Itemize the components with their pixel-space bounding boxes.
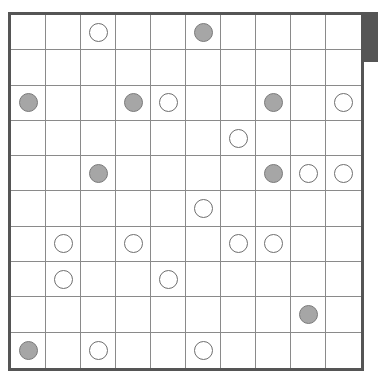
grid-cell[interactable] [291, 262, 326, 297]
grid-cell[interactable] [81, 156, 116, 191]
grid-cell[interactable] [291, 15, 326, 50]
grid-cell[interactable] [46, 121, 81, 156]
grid-cell[interactable] [116, 15, 151, 50]
grid-cell[interactable] [256, 156, 291, 191]
grid-cell[interactable] [256, 262, 291, 297]
grid-cell[interactable] [291, 297, 326, 332]
grid-cell[interactable] [116, 121, 151, 156]
grid-cell[interactable] [116, 191, 151, 226]
grid-cell[interactable] [326, 156, 361, 191]
grid-cell[interactable] [221, 50, 256, 85]
grid-cell[interactable] [81, 191, 116, 226]
grid-cell[interactable] [256, 297, 291, 332]
grid-cell[interactable] [186, 15, 221, 50]
grid-cell[interactable] [326, 121, 361, 156]
grid-cell[interactable] [151, 191, 186, 226]
grid-cell[interactable] [46, 156, 81, 191]
grid-cell[interactable] [46, 15, 81, 50]
grid-cell[interactable] [11, 86, 46, 121]
grid-cell[interactable] [186, 333, 221, 368]
grid-cell[interactable] [221, 121, 256, 156]
grid-cell[interactable] [116, 86, 151, 121]
grid-cell[interactable] [151, 156, 186, 191]
grid-cell[interactable] [116, 297, 151, 332]
grid-cell[interactable] [186, 156, 221, 191]
grid-cell[interactable] [11, 50, 46, 85]
grid-cell[interactable] [256, 86, 291, 121]
grid-cell[interactable] [151, 333, 186, 368]
grid-cell[interactable] [256, 121, 291, 156]
grid-cell[interactable] [11, 333, 46, 368]
grid-cell[interactable] [81, 86, 116, 121]
grid-cell[interactable] [11, 191, 46, 226]
grid-cell[interactable] [46, 262, 81, 297]
grid-cell[interactable] [256, 191, 291, 226]
grid-cell[interactable] [221, 15, 256, 50]
grid-cell[interactable] [186, 191, 221, 226]
grid-cell[interactable] [221, 156, 256, 191]
grid-cell[interactable] [256, 333, 291, 368]
grid-cell[interactable] [11, 227, 46, 262]
grid-cell[interactable] [221, 262, 256, 297]
grid-cell[interactable] [186, 297, 221, 332]
grid-cell[interactable] [11, 297, 46, 332]
grid-cell[interactable] [11, 121, 46, 156]
grid-cell[interactable] [81, 262, 116, 297]
grid-cell[interactable] [291, 156, 326, 191]
grid-cell[interactable] [221, 333, 256, 368]
grid-cell[interactable] [116, 156, 151, 191]
grid-cell[interactable] [116, 227, 151, 262]
grid-cell[interactable] [81, 297, 116, 332]
grid-cell[interactable] [326, 50, 361, 85]
grid-cell[interactable] [46, 50, 81, 85]
grid-cell[interactable] [221, 191, 256, 226]
grid-cell[interactable] [326, 333, 361, 368]
grid-cell[interactable] [186, 262, 221, 297]
grid-cell[interactable] [116, 262, 151, 297]
grid-cell[interactable] [291, 50, 326, 85]
grid-cell[interactable] [116, 333, 151, 368]
grid-cell[interactable] [81, 333, 116, 368]
grid-cell[interactable] [186, 227, 221, 262]
grid-cell[interactable] [46, 191, 81, 226]
grid-cell[interactable] [221, 86, 256, 121]
grid-cell[interactable] [151, 15, 186, 50]
grid-cell[interactable] [81, 227, 116, 262]
grid-cell[interactable] [46, 297, 81, 332]
grid-cell[interactable] [46, 333, 81, 368]
grid-cell[interactable] [46, 227, 81, 262]
grid-cell[interactable] [186, 86, 221, 121]
grid-cell[interactable] [256, 15, 291, 50]
grid-cell[interactable] [151, 121, 186, 156]
grid-cell[interactable] [326, 191, 361, 226]
grid-cell[interactable] [151, 86, 186, 121]
grid-cell[interactable] [151, 262, 186, 297]
grid-cell[interactable] [81, 50, 116, 85]
grid-cell[interactable] [186, 50, 221, 85]
grid-cell[interactable] [81, 121, 116, 156]
grid-cell[interactable] [326, 262, 361, 297]
grid-cell[interactable] [11, 156, 46, 191]
grid-cell[interactable] [81, 15, 116, 50]
grid-cell[interactable] [11, 15, 46, 50]
grid-cell[interactable] [221, 297, 256, 332]
grid-cell[interactable] [116, 50, 151, 85]
grid-cell[interactable] [151, 50, 186, 85]
grid-cell[interactable] [326, 86, 361, 121]
grid-cell[interactable] [291, 86, 326, 121]
grid-cell[interactable] [291, 227, 326, 262]
grid-cell[interactable] [291, 121, 326, 156]
grid-cell[interactable] [221, 227, 256, 262]
grid-cell[interactable] [291, 333, 326, 368]
grid-cell[interactable] [46, 86, 81, 121]
grid-cell[interactable] [326, 297, 361, 332]
grid-cell[interactable] [11, 262, 46, 297]
grid-cell[interactable] [151, 297, 186, 332]
grid-cell[interactable] [256, 227, 291, 262]
grid-cell[interactable] [326, 15, 361, 50]
grid-cell[interactable] [151, 227, 186, 262]
grid-cell[interactable] [291, 191, 326, 226]
grid-cell[interactable] [186, 121, 221, 156]
grid-cell[interactable] [326, 227, 361, 262]
grid-cell[interactable] [256, 50, 291, 85]
